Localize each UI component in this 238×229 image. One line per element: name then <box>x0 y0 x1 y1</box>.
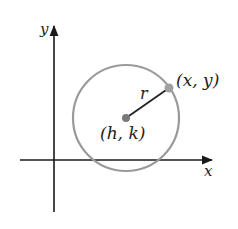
y-axis-label: y <box>39 20 49 38</box>
edge-point <box>165 84 174 93</box>
point-label: (x, y) <box>176 70 219 90</box>
radius-label: r <box>140 84 149 103</box>
center-label: (h, k) <box>100 123 145 143</box>
diagram-canvas: y x (x, y) r (h, k) <box>0 0 238 229</box>
x-axis-label: x <box>204 162 213 180</box>
center-point <box>122 114 130 122</box>
circle-diagram: y x (x, y) r (h, k) <box>0 0 238 229</box>
